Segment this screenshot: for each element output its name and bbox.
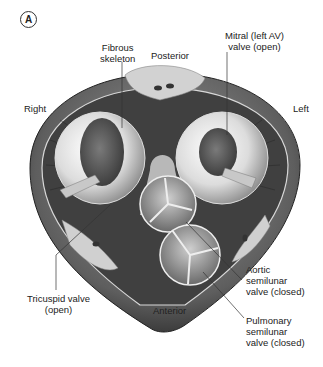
label-anterior: Anterior (153, 305, 186, 316)
label-posterior: Posterior (151, 50, 189, 61)
label-aortic-valve: Aortic semilunar valve (closed) (246, 264, 305, 297)
tricuspid-valve (55, 112, 145, 204)
label-fibrous-skeleton: Fibrous skeleton (100, 42, 135, 64)
label-mitral-valve: Mitral (left AV) valve (open) (225, 30, 284, 52)
pulmonary-valve (160, 225, 220, 285)
label-tricuspid-valve: Tricuspid valve (open) (27, 293, 90, 315)
label-right: Right (24, 103, 46, 114)
label-left: Left (293, 103, 309, 114)
label-pulmonary-valve: Pulmonary semilunar valve (closed) (246, 315, 305, 348)
